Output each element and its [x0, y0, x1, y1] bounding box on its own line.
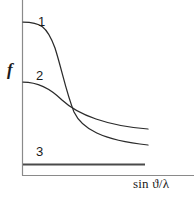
curve-2-path: [23, 82, 148, 129]
curve-label-2: 2: [36, 69, 43, 83]
y-axis-label: f: [7, 60, 13, 80]
curve-label-3: 3: [36, 145, 43, 159]
x-axis-label: sin ϑ/λ: [133, 176, 169, 192]
curve-label-1: 1: [38, 15, 45, 29]
plot-canvas: [0, 0, 194, 197]
figure-container: f sin ϑ/λ 1 2 3: [0, 0, 194, 197]
